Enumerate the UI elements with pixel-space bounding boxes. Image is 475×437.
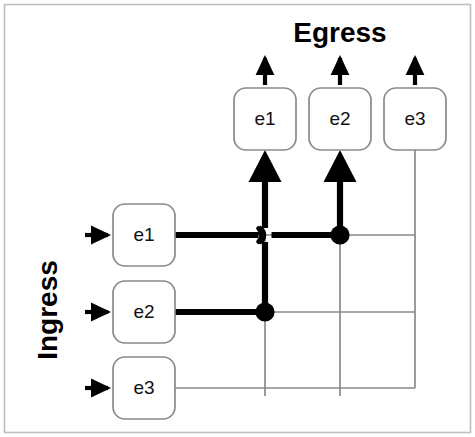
diagram-canvas: e1 e2 e3 e1 e2 e3 [0,0,475,437]
ingress-port-e1-label: e1 [133,224,154,245]
ingress-port-e2[interactable]: e2 [113,281,175,343]
ingress-port-e3[interactable]: e3 [113,357,175,419]
ingress-port-e1[interactable]: e1 [113,204,175,266]
crossbar-diagram: e1 e2 e3 e1 e2 e3 [0,0,475,437]
egress-port-e2-label: e2 [329,108,350,129]
figure-border [5,5,471,433]
crosspoint-r2c1-dot[interactable] [255,302,274,321]
crosspoint-r1c2-dot[interactable] [330,225,349,244]
ingress-port-e3-label: e3 [133,377,154,398]
egress-axis-label: Egress [293,17,386,48]
egress-port-e2[interactable]: e2 [309,88,371,150]
egress-port-e3-label: e3 [404,108,425,129]
egress-port-e1[interactable]: e1 [234,88,296,150]
ingress-port-e2-label: e2 [133,301,154,322]
ingress-axis-label: Ingress [32,260,63,360]
egress-port-e1-label: e1 [254,108,275,129]
egress-port-e3[interactable]: e3 [384,88,446,150]
